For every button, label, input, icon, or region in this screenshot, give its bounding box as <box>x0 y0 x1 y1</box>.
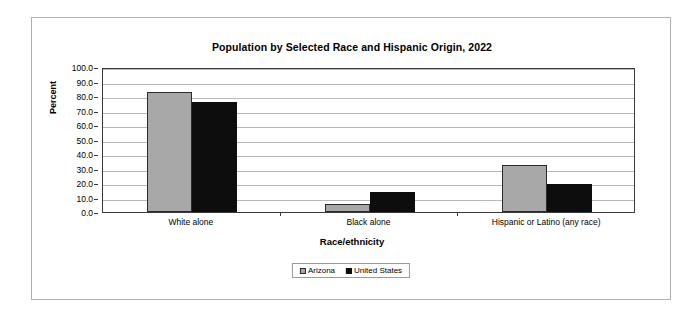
x-axis-tick-labels: White aloneBlack aloneHispanic or Latino… <box>102 217 635 233</box>
x-tick-label: Hispanic or Latino (any race) <box>492 217 601 227</box>
y-tick-mark <box>94 68 98 69</box>
y-tick-label: 50.0 <box>76 136 93 146</box>
x-tick-label: Black alone <box>347 217 391 227</box>
y-tick-mark <box>94 97 98 98</box>
bar-united-states-hispanic-or-latino-any-race- <box>547 184 592 212</box>
y-tick-label: 100.0 <box>72 63 93 73</box>
bar-united-states-black-alone <box>370 192 415 212</box>
y-tick-label: 80.0 <box>76 92 93 102</box>
y-tick-label: 70.0 <box>76 107 93 117</box>
y-tick-mark <box>94 126 98 127</box>
plot-area <box>102 68 635 213</box>
y-tick-mark <box>94 170 98 171</box>
legend-label: Arizona <box>308 266 335 275</box>
x-tick-mark <box>280 212 281 216</box>
x-axis-title: Race/ethnicity <box>32 236 672 247</box>
legend-label: United States <box>354 266 402 275</box>
y-tick-mark <box>94 141 98 142</box>
y-tick-mark <box>94 112 98 113</box>
gridline <box>103 84 634 85</box>
legend-swatch-icon <box>300 268 306 274</box>
legend-item-arizona[interactable]: Arizona <box>300 266 335 275</box>
bar-arizona-hispanic-or-latino-any-race- <box>502 165 547 212</box>
y-tick-label: 20.0 <box>76 179 93 189</box>
y-tick-mark <box>94 213 98 214</box>
chart-title: Population by Selected Race and Hispanic… <box>32 41 672 53</box>
x-tick-mark <box>457 212 458 216</box>
x-tick-label: White alone <box>168 217 213 227</box>
bar-arizona-black-alone <box>325 204 370 212</box>
y-axis-tick-labels: 0.010.020.030.040.050.060.070.080.090.01… <box>50 68 98 213</box>
legend-item-united-states[interactable]: United States <box>346 266 402 275</box>
chart-frame: Population by Selected Race and Hispanic… <box>31 17 671 300</box>
y-tick-mark <box>94 199 98 200</box>
y-tick-label: 30.0 <box>76 165 93 175</box>
chart-legend: ArizonaUnited States <box>292 263 410 278</box>
y-tick-mark <box>94 155 98 156</box>
y-tick-label: 90.0 <box>76 78 93 88</box>
y-tick-mark <box>94 184 98 185</box>
y-tick-label: 40.0 <box>76 150 93 160</box>
y-tick-mark <box>94 83 98 84</box>
y-tick-label: 10.0 <box>76 194 93 204</box>
y-tick-label: 60.0 <box>76 121 93 131</box>
bar-united-states-white-alone <box>192 102 237 212</box>
y-tick-label: 0.0 <box>81 208 93 218</box>
legend-swatch-icon <box>346 268 352 274</box>
bar-arizona-white-alone <box>147 92 192 212</box>
gridline <box>103 69 634 70</box>
